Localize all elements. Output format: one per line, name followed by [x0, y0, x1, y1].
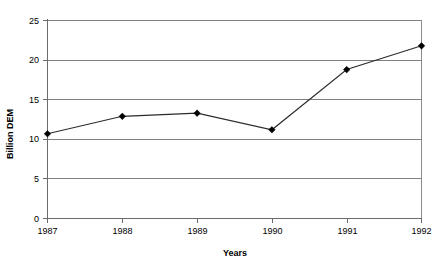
y-axis-title: Billion DEM — [5, 109, 15, 159]
x-tick-marks — [48, 219, 422, 223]
y-tick-label-10: 10 — [29, 134, 39, 144]
line-chart: 25 20 15 10 5 0 1987 1988 1989 1990 1991… — [0, 0, 448, 265]
plot-area-background — [47, 20, 422, 218]
y-tick-label-20: 20 — [29, 55, 39, 65]
x-tick-label-1991: 1991 — [337, 226, 357, 236]
y-tick-label-5: 5 — [34, 174, 39, 184]
x-tick-label-1990: 1990 — [262, 226, 282, 236]
x-tick-label-1992: 1992 — [411, 226, 431, 236]
y-tick-label-25: 25 — [29, 16, 39, 26]
x-tick-labels: 1987 1988 1989 1990 1991 1992 — [37, 226, 431, 236]
x-tick-label-1987: 1987 — [37, 226, 57, 236]
y-tick-marks — [43, 21, 47, 219]
x-axis-title: Years — [223, 248, 247, 258]
x-tick-label-1989: 1989 — [187, 226, 207, 236]
y-tick-label-15: 15 — [29, 95, 39, 105]
y-tick-label-0: 0 — [34, 214, 39, 224]
y-tick-labels: 25 20 15 10 5 0 — [29, 16, 39, 224]
x-tick-label-1988: 1988 — [112, 226, 132, 236]
chart-canvas: 25 20 15 10 5 0 1987 1988 1989 1990 1991… — [0, 0, 448, 265]
